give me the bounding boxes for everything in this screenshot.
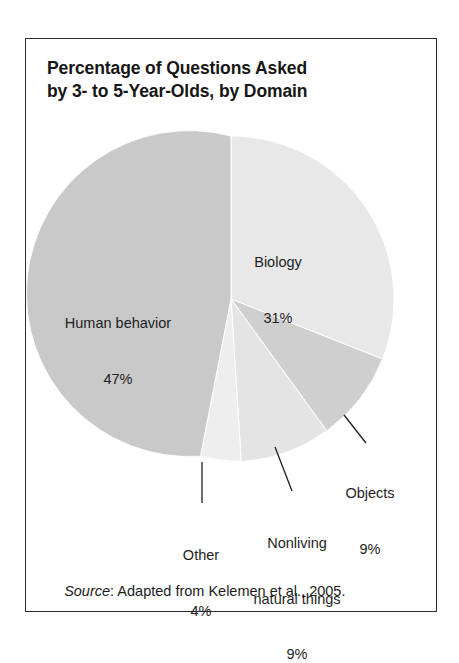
source-note: Source: Adapted from Kelemen et al., 200…: [48, 567, 345, 615]
pie-label-biology-value: 31%: [222, 309, 334, 328]
figure-frame: Percentage of Questions Asked by 3- to 5…: [25, 38, 437, 612]
pie-label-human-behavior: Human behavior 47%: [42, 277, 194, 425]
source-note-label: Source: [64, 583, 110, 599]
pie-label-biology-name: Biology: [222, 253, 334, 272]
pie-label-human-behavior-name: Human behavior: [42, 314, 194, 333]
pie-label-nonliving-natural-things-value: 9%: [238, 645, 356, 663]
pie-chart: Biology 31% Human behavior 47% Objects 9…: [26, 39, 438, 613]
pie-label-biology: Biology 31%: [222, 216, 334, 364]
pie-label-human-behavior-value: 47%: [42, 370, 194, 389]
leader-line-objects: [344, 415, 366, 443]
source-note-text: : Adapted from Kelemen et al., 2005.: [110, 583, 345, 599]
pie-label-other-name: Other: [159, 546, 243, 565]
pie-label-nonliving-natural-things-name-1: Nonliving: [238, 534, 356, 553]
